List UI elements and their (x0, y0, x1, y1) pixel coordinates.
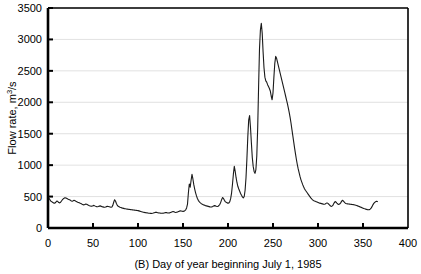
y-axis-title: Flow rate, m3/s (5, 81, 18, 155)
y-tick-label: 3000 (18, 33, 42, 45)
x-tick-label: 200 (219, 237, 237, 249)
x-tick-label: 50 (87, 237, 99, 249)
y-axis-title-suffix: /s (6, 81, 18, 90)
y-tick-label: 2000 (18, 96, 42, 108)
y-tick-label: 500 (24, 191, 42, 203)
y-tick-label: 3500 (18, 2, 42, 14)
x-tick-label: 150 (174, 237, 192, 249)
x-tick-label: 100 (129, 237, 147, 249)
y-tick-label: 0 (36, 222, 42, 234)
y-tick-label: 2500 (18, 65, 42, 77)
x-tick-label: 300 (309, 237, 327, 249)
flow-rate-line-chart: 0500100015002000250030003500 05010015020… (0, 0, 421, 274)
plot-background (48, 8, 408, 228)
chart-figure: 0500100015002000250030003500 05010015020… (0, 0, 421, 274)
y-tick-label: 1500 (18, 128, 42, 140)
svg-text:Flow rate, m3/s: Flow rate, m3/s (5, 81, 18, 155)
x-tick-label: 0 (45, 237, 51, 249)
figure-caption: (B) Day of year beginning July 1, 1985 (134, 258, 321, 270)
y-tick-label: 1000 (18, 159, 42, 171)
x-tick-label: 400 (399, 237, 417, 249)
x-tick-label: 250 (264, 237, 282, 249)
y-axis-title-prefix: Flow rate, m (6, 94, 18, 155)
x-tick-label: 350 (354, 237, 372, 249)
